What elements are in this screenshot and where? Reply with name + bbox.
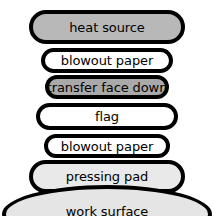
layer-label-work-surface: work surface [66, 205, 148, 216]
layer-label-heat-source: heat source [69, 21, 145, 34]
layer-label-transfer-face-down: transfer face down [47, 81, 168, 94]
layer-label-pressing-pad: pressing pad [66, 170, 148, 183]
layer-label-blowout-paper-bottom: blowout paper [61, 140, 153, 153]
diagram-layer-flag: flag [36, 103, 178, 130]
diagram-layer-blowout-paper-bottom: blowout paper [44, 134, 170, 158]
layer-label-blowout-paper-top: blowout paper [61, 54, 153, 67]
diagram-layer-transfer-face-down: transfer face down [45, 75, 169, 99]
layer-stack-diagram: heat source blowout paper transfer face … [0, 0, 214, 216]
diagram-layer-blowout-paper-top: blowout paper [41, 48, 173, 73]
diagram-layer-heat-source: heat source [29, 10, 185, 44]
diagram-layer-work-surface: work surface [2, 185, 212, 216]
layer-label-flag: flag [95, 110, 119, 123]
